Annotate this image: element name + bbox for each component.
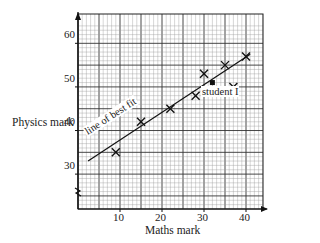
axes (75, 12, 268, 212)
student-i-label: student I (201, 86, 239, 97)
y-tick-40: 40 (64, 115, 75, 127)
x-tick-10: 10 (113, 211, 124, 223)
x-axis-label: Maths mark (145, 224, 200, 236)
y-tick-50: 50 (64, 72, 75, 84)
x-tick-40: 40 (239, 211, 250, 223)
x-tick-30: 30 (197, 211, 208, 223)
x-tick-20: 20 (155, 211, 166, 223)
y-tick-60: 60 (64, 28, 75, 40)
y-tick-30: 30 (64, 159, 75, 171)
